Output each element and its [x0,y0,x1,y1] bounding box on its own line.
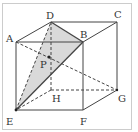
label-d: D [46,10,54,21]
point-e [15,109,18,112]
point-p [47,55,50,58]
edge-gf [83,90,117,110]
label-a: A [5,33,14,44]
label-e: E [6,116,13,127]
label-g: G [118,93,126,104]
point-g [116,89,118,91]
label-p: P [40,59,47,70]
edge-cb [83,22,117,42]
label-b: B [80,29,87,40]
cube-diagram: D C A B P H G E F [0,0,138,132]
label-f: F [80,116,87,127]
label-h: H [52,93,61,104]
label-c: C [114,9,122,20]
